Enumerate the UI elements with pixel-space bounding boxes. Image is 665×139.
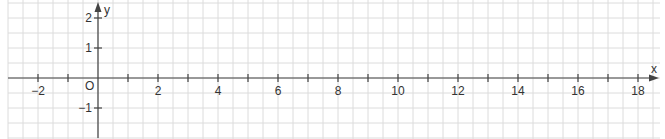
x-tick-label: 18 — [631, 84, 645, 98]
axes — [8, 2, 659, 138]
x-tick-label: 10 — [391, 84, 405, 98]
y-tick-label: 2 — [85, 11, 92, 25]
x-tick-label: 14 — [511, 84, 525, 98]
x-axis-label: x — [651, 62, 657, 76]
x-tick-label: 8 — [335, 84, 342, 98]
origin-label: O — [85, 79, 94, 93]
y-tick-label: −1 — [78, 101, 92, 115]
grid-lines — [8, 0, 660, 139]
y-axis-label: y — [104, 3, 110, 17]
x-tick-label: 2 — [155, 84, 162, 98]
x-tick-label: 4 — [215, 84, 222, 98]
x-tick-label: 12 — [451, 84, 465, 98]
y-tick-label: 1 — [85, 41, 92, 55]
x-tick-label: 6 — [275, 84, 282, 98]
x-tick-label: −2 — [31, 84, 45, 98]
x-tick-label: 16 — [571, 84, 585, 98]
coordinate-plane: −22468101214161821−1 x y O — [0, 0, 665, 139]
